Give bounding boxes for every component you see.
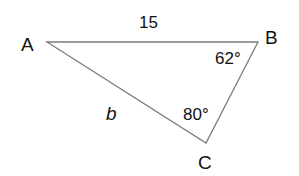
angle-c-label: 80° xyxy=(183,105,209,124)
angle-b-label: 62° xyxy=(215,49,241,68)
triangle-diagram: A B C 15 b 62° 80° xyxy=(0,0,299,176)
side-ab-label: 15 xyxy=(139,13,158,32)
vertex-b-label: B xyxy=(265,27,278,48)
vertex-a-label: A xyxy=(21,34,34,55)
vertex-c-label: C xyxy=(198,152,212,173)
side-ac-label: b xyxy=(106,103,117,124)
